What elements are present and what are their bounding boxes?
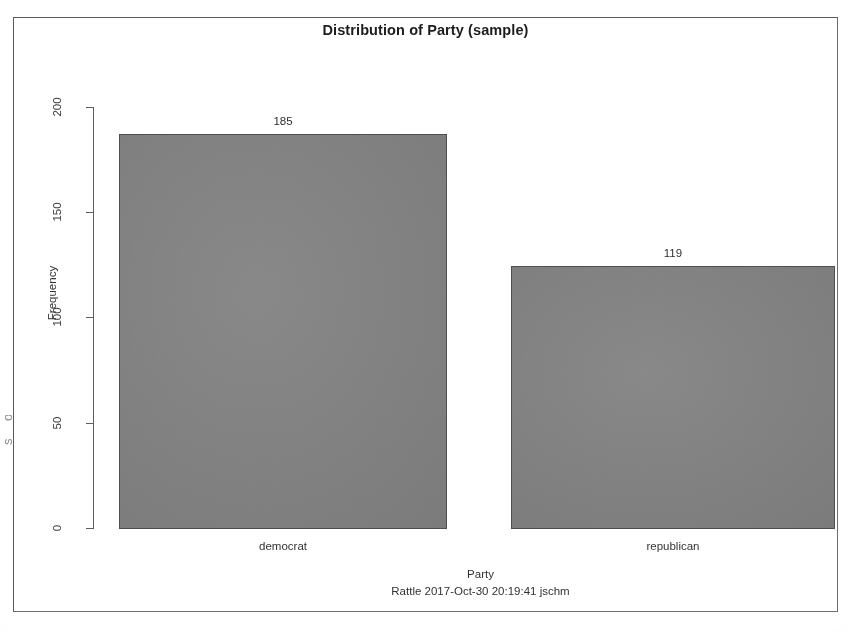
y-tick-50 [86,423,94,424]
y-tick-100 [86,317,94,318]
bar-democrat[interactable] [119,134,447,529]
bar-value-republican: 119 [633,247,713,259]
category-label-democrat: democrat [223,540,343,552]
y-tick-200 [86,107,94,108]
page-edge-bleed-artifact: s o s e - - : : [0,415,13,631]
x-axis-title: Party [13,568,847,580]
scanned-page: s o s e - - : : Distribution of Party (s… [0,0,847,631]
plot-region: 200 150 100 50 0 Frequency 185 119 democ… [13,17,838,612]
y-tick-150 [86,212,94,213]
y-axis-title: Frequency [44,238,60,348]
y-tick-label-50: 50 [35,416,79,430]
bar-value-democrat: 185 [243,115,323,127]
y-tick-label-200: 200 [35,100,79,114]
bar-republican[interactable] [511,266,835,529]
bleed-through-text: s o s e - - : : [0,415,13,445]
bar-chart: Distribution of Party (sample) 200 150 1… [13,17,838,612]
chart-footer-stamp: Rattle 2017-Oct-30 20:19:41 jschm [13,585,847,597]
y-tick-label-150: 150 [35,205,79,219]
y-tick-label-0: 0 [35,521,79,535]
y-tick-0 [86,528,94,529]
category-label-republican: republican [613,540,733,552]
